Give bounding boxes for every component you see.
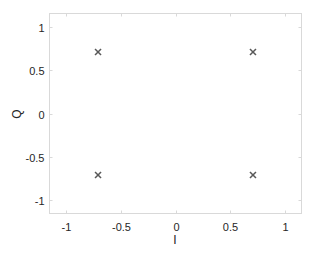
y-tick-label: -1 [35,195,45,207]
axes-box [50,14,302,214]
x-axis-label: I [173,233,176,247]
y-axis-label: Q [10,109,24,118]
y-tick-label: -0.5 [26,152,45,164]
x-tick-label: 0 [173,221,179,233]
x-tick-label: 1 [282,221,288,233]
x-tick-label: -1 [62,221,72,233]
scatter-chart: -1-0.500.51 -1-0.500.51 I Q [0,0,317,254]
y-tick-label: 0 [38,109,44,121]
y-tick-label: 1 [38,22,44,34]
x-tick-label: 0.5 [223,221,238,233]
x-tick-label: -0.5 [112,221,131,233]
y-tick-label: 0.5 [29,65,44,77]
